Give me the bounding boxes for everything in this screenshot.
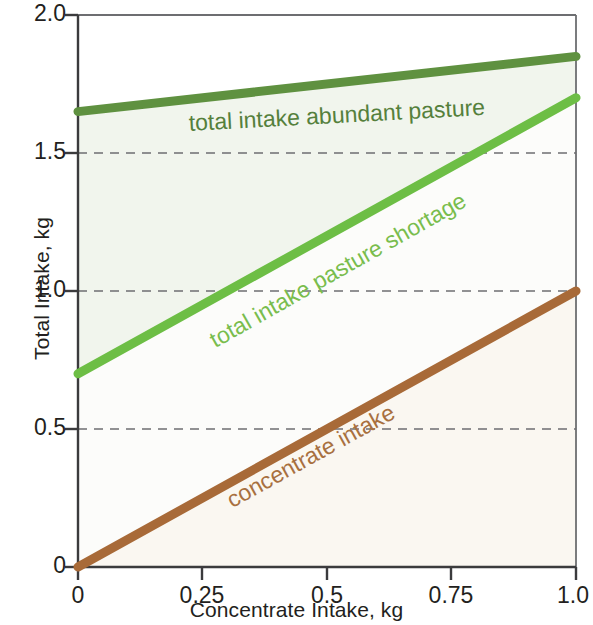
x-axis-title: Concentrate Intake, kg [0,598,593,622]
plot-canvas [0,0,593,625]
y-axis-title: Total Intake, kg [30,0,54,585]
x-axis-ticks [78,567,576,580]
y-axis-ticks [65,15,78,567]
chart-figure: 2.0 1.5 1.0 0.5 0 0 0.25 0.5 0.75 1.0 Co… [0,0,593,625]
